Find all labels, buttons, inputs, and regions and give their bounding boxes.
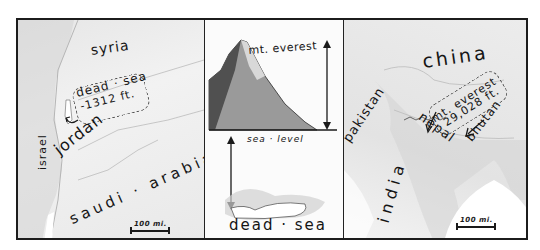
map-figure: syria dead · sea -1312 ft. israel jordan… bbox=[16, 18, 528, 240]
label-dead-sea-bottom: dead · sea bbox=[229, 216, 327, 234]
panel-middle-east: syria dead · sea -1312 ft. israel jordan… bbox=[18, 20, 204, 238]
scale-bar-right: 100 mi. bbox=[456, 216, 496, 228]
label-sea-level: sea · level bbox=[247, 134, 304, 144]
panel-elevation-comparison: mt. everest sea · level dead · sea bbox=[204, 20, 344, 238]
label-israel: israel bbox=[36, 134, 49, 170]
scale-bar-left: 100 mi. bbox=[130, 220, 170, 232]
panel-south-asia: china mt. everest 29,028 ft. pakistan ne… bbox=[344, 20, 526, 238]
